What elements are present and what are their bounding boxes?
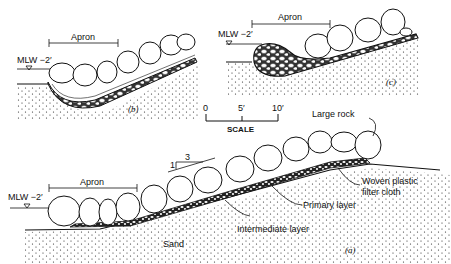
callout-filter-cloth-1: Woven plastic bbox=[362, 177, 418, 186]
water-level-label-b: MLW −2′ bbox=[17, 56, 52, 65]
apron-label-a: Apron bbox=[80, 178, 104, 187]
callout-intermediate-layer: Intermediate layer bbox=[237, 225, 309, 234]
apron-label-c: Apron bbox=[278, 13, 302, 22]
panel-caption-b: (b) bbox=[128, 105, 139, 114]
apron-label-b: Apron bbox=[71, 33, 95, 42]
slope-run: 3 bbox=[185, 153, 190, 162]
scale-tick-10: 10′ bbox=[272, 104, 284, 113]
scale-bar bbox=[206, 114, 278, 121]
scale-tick-5: 5′ bbox=[238, 104, 245, 113]
panel-caption-c: (c) bbox=[386, 78, 396, 87]
label-sand: Sand bbox=[163, 240, 184, 249]
scale-label: SCALE bbox=[227, 126, 254, 134]
callout-primary-layer: Primary layer bbox=[303, 201, 356, 210]
water-level-icon bbox=[24, 204, 30, 208]
scale-tick-0: 0 bbox=[203, 104, 208, 113]
panel-b bbox=[17, 34, 200, 120]
water-level-label-a: MLW −2′ bbox=[8, 193, 43, 202]
panel-caption-a: (a) bbox=[345, 246, 356, 255]
water-level-label-c: MLW −2′ bbox=[218, 30, 253, 39]
water-level-icon bbox=[226, 41, 232, 45]
callout-large-rock: Large rock bbox=[312, 110, 355, 119]
callout-filter-cloth-2: filter cloth bbox=[362, 188, 401, 197]
riprap-diagram bbox=[0, 0, 451, 264]
slope-rise: 1 bbox=[170, 161, 175, 170]
